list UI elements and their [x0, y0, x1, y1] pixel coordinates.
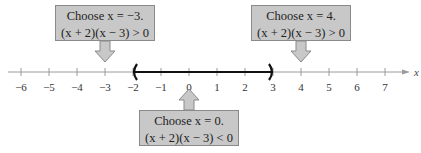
test-point-result: (x + 2)(x − 3) > 0	[252, 25, 350, 42]
arrow-up-icon	[179, 89, 199, 110]
test-point-result: (x + 2)(x − 3) > 0	[56, 25, 154, 42]
tick-label: −1	[155, 81, 167, 93]
tick-label: 7	[382, 81, 388, 93]
tick-label: −4	[71, 81, 83, 93]
tick-label: −5	[43, 81, 55, 93]
tick-label: 2	[242, 81, 248, 93]
tick-label: 5	[326, 81, 332, 93]
tick-label: −3	[99, 81, 111, 93]
tick-label: 3	[270, 81, 276, 93]
arrow-down-icon	[95, 41, 115, 62]
tick-label: 1	[214, 81, 220, 93]
axis-arrow-icon	[402, 70, 410, 75]
tick-label: 4	[298, 81, 304, 93]
tick-label: 6	[354, 81, 360, 93]
test-point-choice: Choose x = −3.	[56, 8, 154, 25]
arrow-group	[95, 41, 311, 110]
arrow-down-icon	[291, 41, 311, 62]
test-point-box-neg3: Choose x = −3. (x + 2)(x − 3) > 0	[55, 5, 155, 41]
axis-label: x	[413, 66, 419, 78]
test-point-box-0: Choose x = 0. (x + 2)(x − 3) < 0	[139, 110, 239, 146]
tick-label: −6	[15, 81, 27, 93]
test-point-choice: Choose x = 4.	[252, 8, 350, 25]
test-point-box-4: Choose x = 4. (x + 2)(x − 3) > 0	[251, 5, 351, 41]
test-point-result: (x + 2)(x − 3) < 0	[140, 130, 238, 147]
test-point-choice: Choose x = 0.	[140, 113, 238, 130]
tick-label: −2	[127, 81, 139, 93]
